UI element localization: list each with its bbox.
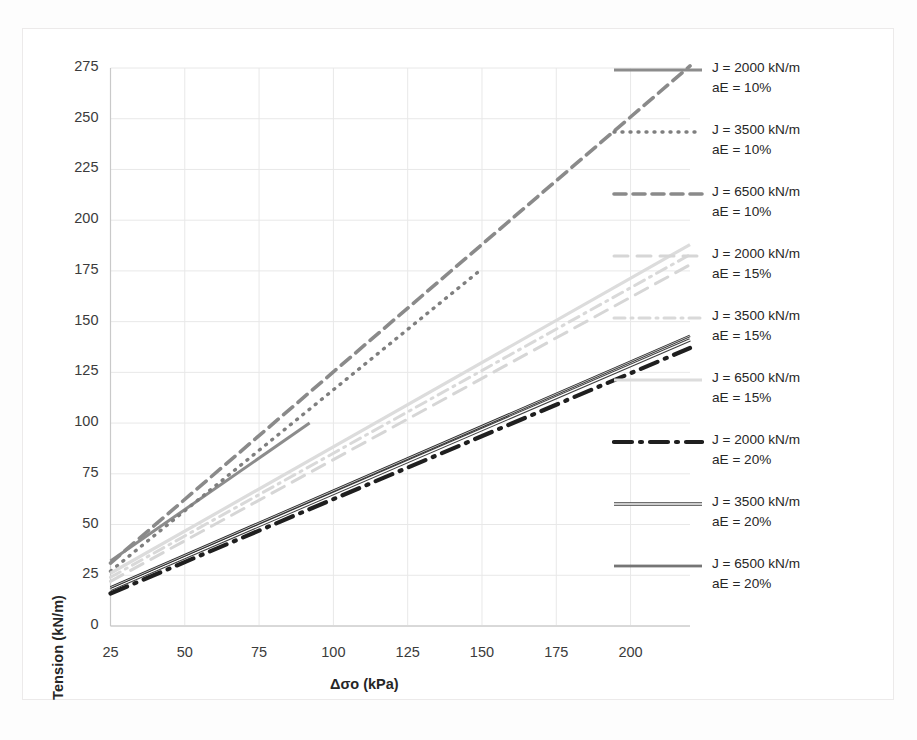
x-tick-label: 100 xyxy=(303,644,363,660)
legend-label: J = 2000 kN/maE = 20% xyxy=(712,430,902,470)
legend-item[interactable]: J = 3500 kN/maE = 10% xyxy=(712,120,902,182)
y-tick-label: 225 xyxy=(55,159,99,175)
y-tick-label: 125 xyxy=(55,362,99,378)
legend-line-sample xyxy=(612,126,704,138)
legend-item[interactable]: J = 2000 kN/maE = 15% xyxy=(712,244,902,306)
legend-line-sample xyxy=(612,64,704,76)
legend-label-line1: J = 3500 kN/m xyxy=(712,492,902,512)
legend-item[interactable]: J = 3500 kN/maE = 15% xyxy=(712,306,902,368)
legend-label-line2: aE = 10% xyxy=(712,202,902,222)
legend-label-line2: aE = 20% xyxy=(712,574,902,594)
y-tick-label: 275 xyxy=(55,58,99,74)
legend-label-line2: aE = 10% xyxy=(712,140,902,160)
chart-legend: J = 2000 kN/maE = 10%J = 3500 kN/maE = 1… xyxy=(712,58,902,616)
legend-item[interactable]: J = 6500 kN/maE = 15% xyxy=(712,368,902,430)
legend-line-sample xyxy=(612,250,704,262)
legend-line-sample xyxy=(612,374,704,386)
x-tick-label: 125 xyxy=(378,644,438,660)
legend-line-sample xyxy=(612,312,704,324)
x-axis-label: Δσo (kPa) xyxy=(330,676,399,692)
legend-label-line1: J = 6500 kN/m xyxy=(712,554,902,574)
legend-line-sample xyxy=(612,560,704,572)
y-tick-label: 75 xyxy=(55,464,99,480)
series-line-inner-9 xyxy=(111,336,691,588)
legend-label: J = 2000 kN/maE = 10% xyxy=(712,58,902,98)
x-tick-label: 175 xyxy=(526,644,586,660)
legend-label-line2: aE = 10% xyxy=(712,78,902,98)
legend-label: J = 3500 kN/maE = 20% xyxy=(712,492,902,532)
legend-label-line1: J = 6500 kN/m xyxy=(712,368,902,388)
x-tick-label: 75 xyxy=(229,644,289,660)
legend-item[interactable]: J = 6500 kN/maE = 20% xyxy=(712,554,902,616)
series-line-6 xyxy=(111,245,691,574)
legend-label-line2: aE = 15% xyxy=(712,264,902,284)
legend-item[interactable]: J = 2000 kN/maE = 20% xyxy=(712,430,902,492)
legend-label-line1: J = 2000 kN/m xyxy=(712,430,902,450)
series-line-3 xyxy=(111,66,691,563)
y-tick-label: 25 xyxy=(55,565,99,581)
legend-label: J = 6500 kN/maE = 20% xyxy=(712,554,902,594)
legend-label-line2: aE = 15% xyxy=(712,388,902,408)
x-tick-label: 50 xyxy=(155,644,215,660)
series-line-5 xyxy=(111,255,691,578)
y-tick-label: 150 xyxy=(55,312,99,328)
legend-label-line2: aE = 20% xyxy=(712,450,902,470)
legend-item[interactable]: J = 2000 kN/maE = 10% xyxy=(712,58,902,120)
x-tick-label: 25 xyxy=(81,644,141,660)
legend-line-sample xyxy=(612,188,704,200)
legend-label: J = 6500 kN/maE = 10% xyxy=(712,182,902,222)
legend-item[interactable]: J = 6500 kN/maE = 10% xyxy=(712,182,902,244)
x-tick-label: 200 xyxy=(601,644,661,660)
legend-label-line1: J = 2000 kN/m xyxy=(712,244,902,264)
y-tick-label: 50 xyxy=(55,515,99,531)
chart-page: Tension (kN/m) Δσo (kPa) 025507510012515… xyxy=(0,0,917,740)
legend-label-line1: J = 3500 kN/m xyxy=(712,120,902,140)
legend-label-line1: J = 6500 kN/m xyxy=(712,182,902,202)
series-line-inner-8 xyxy=(111,340,691,590)
legend-line-sample xyxy=(612,436,704,448)
y-tick-label: 0 xyxy=(55,616,99,632)
legend-label: J = 2000 kN/maE = 15% xyxy=(712,244,902,284)
y-axis-label: Tension (kN/m) xyxy=(50,595,66,700)
series-line-7 xyxy=(111,348,691,594)
legend-label-line1: J = 2000 kN/m xyxy=(712,58,902,78)
legend-line-sample xyxy=(612,498,704,510)
y-tick-label: 175 xyxy=(55,261,99,277)
y-tick-label: 250 xyxy=(55,109,99,125)
y-tick-label: 200 xyxy=(55,210,99,226)
legend-label: J = 3500 kN/maE = 15% xyxy=(712,306,902,346)
series-line-2 xyxy=(111,269,482,571)
y-tick-label: 100 xyxy=(55,413,99,429)
legend-label: J = 3500 kN/maE = 10% xyxy=(712,120,902,160)
legend-label-line2: aE = 15% xyxy=(712,326,902,346)
legend-label: J = 6500 kN/maE = 15% xyxy=(712,368,902,408)
legend-item[interactable]: J = 3500 kN/maE = 20% xyxy=(712,492,902,554)
legend-label-line1: J = 3500 kN/m xyxy=(712,306,902,326)
x-tick-label: 150 xyxy=(452,644,512,660)
legend-label-line2: aE = 20% xyxy=(712,512,902,532)
